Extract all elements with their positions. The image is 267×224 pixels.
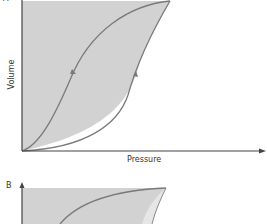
panel-b-y-axis-arrow-icon	[20, 182, 25, 188]
panel-a-shaded-area	[22, 1, 170, 151]
panel-a-x-axis-label: Pressure	[127, 155, 161, 164]
panel-a-label: A	[3, 0, 8, 3]
panel-a-x-axis-arrow-icon	[259, 149, 266, 154]
panel-b-label: B	[6, 181, 12, 190]
pv-diagram	[0, 0, 267, 224]
panel-a-y-axis-label: Volume	[7, 60, 16, 90]
